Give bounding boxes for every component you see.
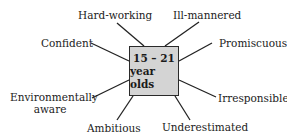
label-underestimated: Underestimated <box>162 121 248 133</box>
center-line2: year olds <box>130 65 178 91</box>
label-environmentally-aware: Environmentally aware <box>10 91 90 115</box>
label-promiscuous: Promiscuous <box>219 37 287 49</box>
center-box: 15 – 21 year olds <box>129 46 179 96</box>
label-irresponsible: Irresponsible <box>218 92 287 104</box>
label-confident: Confident <box>41 37 93 49</box>
label-hard-working: Hard-working <box>78 9 152 21</box>
label-ambitious: Ambitious <box>87 122 141 134</box>
label-ill-mannered: Ill-mannered <box>173 9 241 21</box>
center-line1: 15 – 21 <box>133 52 175 65</box>
